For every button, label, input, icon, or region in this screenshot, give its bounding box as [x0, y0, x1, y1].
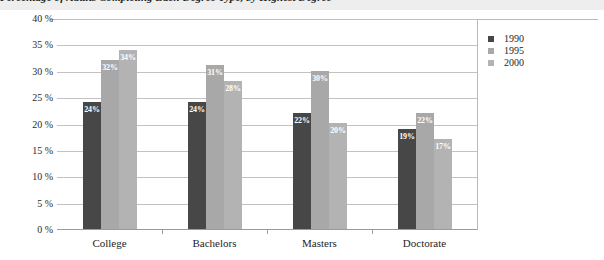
bar-value-label: 28% [224, 84, 242, 93]
y-axis-tick-label: 0 % [9, 225, 53, 235]
bar-value-label: 22% [293, 116, 311, 125]
x-axis-category-label: Doctorate [372, 236, 477, 250]
bar-group: 24%32%34% [83, 19, 137, 229]
bar-value-label: 31% [206, 68, 224, 77]
legend-divider [477, 19, 478, 230]
bar-group: 24%31%28% [188, 19, 242, 229]
bar[interactable]: 32% [101, 60, 119, 229]
chart-title: Percentage of Adults Completing Each Deg… [0, 0, 604, 5]
y-axis-tick-label: 15 % [9, 146, 53, 156]
bar-value-label: 19% [398, 132, 416, 141]
chart-legend: 199019952000 [488, 32, 568, 68]
x-axis-tick [372, 230, 373, 234]
y-axis: 0 %5 %10 %15 %20 %25 %30 %35 %40 % [4, 19, 53, 230]
y-axis-tick-label: 30 % [9, 67, 53, 77]
x-axis-tick [267, 230, 268, 234]
bar-value-label: 34% [119, 53, 137, 62]
bar[interactable]: 19% [398, 129, 416, 229]
bar-group: 19%22%17% [398, 19, 452, 229]
x-axis-category-label: Bachelors [162, 236, 267, 250]
legend-item[interactable]: 1990 [488, 32, 568, 44]
bar[interactable]: 22% [416, 113, 434, 229]
x-axis-category-label: College [57, 236, 162, 250]
legend-item[interactable]: 1995 [488, 44, 568, 56]
y-axis-tick-label: 5 % [9, 199, 53, 209]
y-axis-tick-label: 25 % [9, 93, 53, 103]
y-axis-tick-label: 10 % [9, 172, 53, 182]
legend-item[interactable]: 2000 [488, 56, 568, 68]
x-axis-labels: CollegeBachelorsMastersDoctorate [57, 236, 477, 252]
bar[interactable]: 24% [83, 102, 101, 229]
legend-swatch-icon [488, 48, 494, 54]
bar-value-label: 22% [416, 116, 434, 125]
bar[interactable]: 30% [311, 71, 329, 229]
bar[interactable]: 31% [206, 65, 224, 229]
bar-value-label: 24% [188, 105, 206, 114]
y-axis-tick-label: 20 % [9, 120, 53, 130]
plot-area: 24%32%34%24%31%28%22%30%20%19%22%17% [57, 19, 477, 230]
bar-value-label: 20% [329, 126, 347, 135]
bar[interactable]: 20% [329, 123, 347, 229]
chart-figure: 0 %5 %10 %15 %20 %25 %30 %35 %40 % 24%32… [0, 10, 604, 260]
bar[interactable]: 24% [188, 102, 206, 229]
bar-value-label: 24% [83, 105, 101, 114]
legend-label: 2000 [504, 57, 524, 69]
bar[interactable]: 28% [224, 81, 242, 229]
bar-value-label: 17% [434, 142, 452, 151]
bar[interactable]: 17% [434, 139, 452, 229]
legend-swatch-icon [488, 60, 494, 66]
x-axis-ticks [57, 230, 477, 235]
x-axis-tick [162, 230, 163, 234]
y-axis-tick-label: 40 % [9, 14, 53, 24]
bar[interactable]: 22% [293, 113, 311, 229]
bar-value-label: 30% [311, 74, 329, 83]
legend-swatch-icon [488, 36, 494, 42]
bar-value-label: 32% [101, 63, 119, 72]
bar-group: 22%30%20% [293, 19, 347, 229]
bar[interactable]: 34% [119, 50, 137, 229]
y-axis-tick-label: 35 % [9, 40, 53, 50]
x-axis-category-label: Masters [267, 236, 372, 250]
